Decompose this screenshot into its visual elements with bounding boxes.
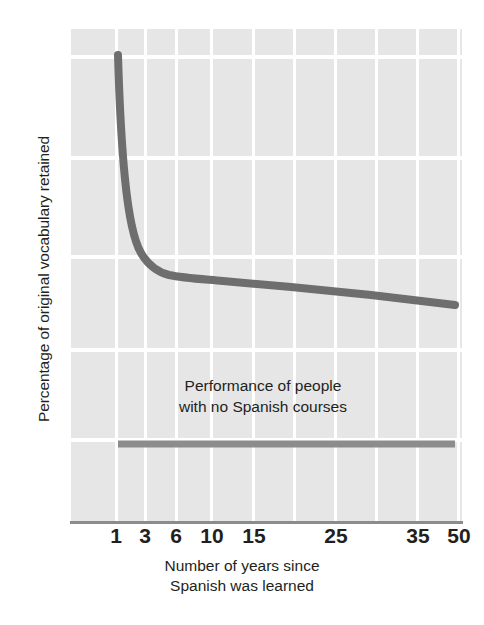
annotation-line-1: Performance of people [103, 376, 423, 397]
x-tick-1: 1 [110, 524, 122, 548]
x-axis-title-line-1: Number of years since [0, 556, 484, 576]
x-axis-tick-labels: 1 3 6 10 15 25 35 50 [0, 524, 484, 554]
x-tick-25: 25 [324, 524, 347, 548]
x-tick-6: 6 [170, 524, 182, 548]
x-axis-title: Number of years since Spanish was learne… [0, 556, 484, 597]
x-axis-title-line-2: Spanish was learned [0, 576, 484, 596]
x-tick-15: 15 [242, 524, 265, 548]
x-tick-50: 50 [447, 524, 470, 548]
data-series-layer [71, 29, 462, 521]
annotation-line-2: with no Spanish courses [103, 397, 423, 418]
baseline-annotation: Performance of people with no Spanish co… [103, 376, 423, 417]
plot-area: Performance of people with no Spanish co… [71, 29, 462, 521]
x-tick-35: 35 [406, 524, 429, 548]
x-tick-3: 3 [139, 524, 151, 548]
retention-curve-line [118, 55, 455, 305]
x-tick-10: 10 [200, 524, 223, 548]
forgetting-curve-chart: Percentage of original vocabulary retain… [0, 0, 484, 625]
